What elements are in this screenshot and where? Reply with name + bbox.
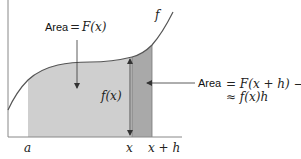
area-right-line2: ≈ f(x)h	[226, 90, 268, 104]
area-right-line1: = F(x + h) − F(x)	[226, 77, 301, 91]
tick-label-x-plus-h: x + h	[148, 141, 180, 155]
area-function-diagram: f Area = F(x) f(x) Area = F(x + h) − F(x…	[0, 0, 301, 159]
area-right-word: Area	[198, 77, 222, 89]
area-strip-x-to-x-plus-h	[132, 45, 152, 137]
area-top-equals: =	[70, 20, 80, 34]
height-label: f(x)	[100, 89, 122, 103]
area-top-word: Area	[45, 21, 69, 33]
tick-label-a: a	[24, 141, 31, 155]
area-top-expr: F(x)	[81, 20, 107, 34]
tick-label-x: x	[126, 141, 133, 155]
function-label: f	[154, 8, 162, 22]
